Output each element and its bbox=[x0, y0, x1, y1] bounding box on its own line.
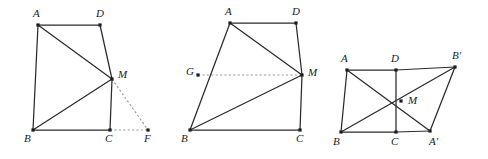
vertex-dot-m bbox=[110, 77, 113, 80]
vertex-label-m: M bbox=[407, 94, 418, 106]
vertex-dot-a bbox=[345, 68, 348, 71]
vertex-label-ap: A' bbox=[428, 135, 439, 147]
vertex-label-c: C bbox=[391, 135, 399, 147]
vertex-dot-a bbox=[228, 21, 231, 24]
vertex-label-m: M bbox=[307, 66, 318, 78]
vertex-dot-b bbox=[339, 130, 342, 133]
vertex-dot-d bbox=[98, 23, 101, 26]
vertex-dot-c bbox=[394, 130, 397, 133]
vertex-label-b: B bbox=[333, 135, 340, 147]
vertex-label-c: C bbox=[296, 132, 304, 144]
vertex-dot-d bbox=[294, 21, 297, 24]
canvas-background bbox=[0, 0, 488, 159]
vertex-dot-m bbox=[300, 73, 303, 76]
vertex-label-a: A bbox=[224, 5, 232, 17]
vertex-label-f: F bbox=[143, 132, 151, 144]
vertex-dot-g bbox=[196, 73, 199, 76]
vertex-dot-b bbox=[31, 128, 34, 131]
vertex-label-b: B bbox=[181, 132, 188, 144]
vertex-label-a: A bbox=[340, 52, 348, 64]
vertex-label-d: D bbox=[95, 7, 104, 19]
vertex-label-b: B bbox=[24, 132, 31, 144]
vertex-dot-a bbox=[36, 23, 39, 26]
vertex-dot-m bbox=[399, 99, 402, 102]
geometry-figure-sheet: ADMBCFADGMBCADB'MBCA' bbox=[0, 0, 488, 159]
vertex-dot-ap bbox=[428, 129, 431, 132]
vertex-label-d: D bbox=[291, 5, 300, 17]
vertex-dot-b bbox=[188, 128, 191, 131]
vertex-label-g: G bbox=[186, 65, 194, 77]
vertex-label-m: M bbox=[117, 68, 128, 80]
vertex-label-c: C bbox=[105, 132, 113, 144]
figure-canvas: ADMBCFADGMBCADB'MBCA' bbox=[0, 0, 488, 159]
vertex-dot-bp bbox=[453, 65, 456, 68]
vertex-label-a: A bbox=[32, 7, 40, 19]
vertex-dot-d bbox=[394, 68, 397, 71]
vertex-label-bp: B' bbox=[452, 49, 462, 61]
vertex-label-d: D bbox=[390, 52, 399, 64]
